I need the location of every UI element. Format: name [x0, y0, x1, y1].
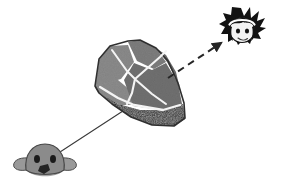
character-eye-right [245, 28, 249, 33]
scene-svg [0, 0, 282, 185]
creature [14, 144, 77, 176]
rock [95, 40, 185, 126]
character-eye-left [236, 28, 240, 33]
illustration-canvas: Line-of-sight diagram: creature sees roc… [0, 0, 282, 185]
character-head [219, 7, 266, 45]
creature-eye-right [50, 155, 56, 163]
sight-line [60, 109, 126, 152]
creature-eye-left [34, 155, 40, 163]
